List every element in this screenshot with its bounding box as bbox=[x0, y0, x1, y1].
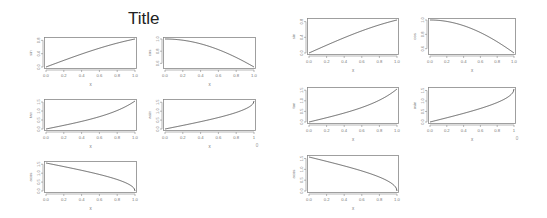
curve-tan bbox=[46, 101, 135, 129]
x-tick-label: 0.0 bbox=[427, 128, 433, 133]
x-tick-label: 0.6 bbox=[359, 59, 365, 64]
y-tick-label: 1.5 bbox=[155, 99, 160, 105]
y-tick-label: 0.8 bbox=[420, 31, 425, 37]
y-tick-label: 0.5 bbox=[36, 179, 41, 185]
x-tick-label: 0.4 bbox=[341, 197, 347, 202]
x-axis-label: x bbox=[471, 137, 474, 142]
curve-sin bbox=[46, 39, 135, 67]
plot-frame bbox=[45, 100, 137, 131]
x-tick-label: 1.0 bbox=[394, 59, 400, 64]
plot-panel-asin: 0.00.20.40.60.810.00.51.01.5asinx0 bbox=[163, 99, 256, 131]
x-tick-label: 0.6 bbox=[477, 59, 483, 64]
y-tick-label: 0.0 bbox=[36, 63, 41, 69]
x-tick-label: 0.4 bbox=[79, 135, 85, 140]
plot-panel-cos: 0.00.20.40.60.81.00.60.81.0cosx bbox=[163, 37, 256, 69]
plot-svg: 0.00.20.40.60.81.00.00.40.8sinx bbox=[44, 37, 137, 69]
y-tick-label: 0.5 bbox=[36, 116, 41, 122]
x-tick-label: 0.4 bbox=[198, 135, 204, 140]
x-tick-label: 0.8 bbox=[233, 73, 239, 78]
curve-asin bbox=[430, 89, 514, 122]
y-axis-label: acos bbox=[28, 173, 33, 182]
plot-svg: 0.00.20.40.60.810.00.51.01.5asinx0 bbox=[163, 99, 256, 131]
y-tick-label: 0.0 bbox=[420, 118, 425, 124]
y-tick-label: 0.0 bbox=[155, 125, 160, 131]
x-tick-label: 0.6 bbox=[477, 128, 483, 133]
y-axis-label: acos bbox=[291, 170, 296, 179]
curve-cos bbox=[165, 39, 254, 67]
curve-tan bbox=[309, 89, 397, 122]
x-tick-label: 1.0 bbox=[511, 59, 517, 64]
y-tick-label: 0.8 bbox=[299, 18, 304, 24]
y-tick-label: 0.0 bbox=[299, 49, 304, 55]
x-tick-label: 1.0 bbox=[394, 128, 400, 133]
plot-frame bbox=[164, 38, 256, 69]
y-tick-label: 1.0 bbox=[155, 108, 160, 114]
x-tick-label: 0.0 bbox=[427, 59, 433, 64]
y-tick-label: 1.5 bbox=[36, 98, 41, 104]
y-tick-label: 1.0 bbox=[299, 97, 304, 103]
plot-svg: 0.00.20.40.60.81.00.60.81.0cosx bbox=[163, 37, 256, 69]
curve-sin bbox=[309, 20, 397, 53]
y-tick-label: 0.5 bbox=[299, 177, 304, 183]
x-tick-label: 0.8 bbox=[114, 73, 120, 78]
plot-panel-tan: 0.00.20.40.60.81.00.00.51.01.5tanx bbox=[44, 99, 137, 131]
figure-title: Title bbox=[128, 9, 160, 29]
y-tick-label: 1.0 bbox=[299, 166, 304, 172]
x-tick-label: 0.6 bbox=[215, 135, 221, 140]
x-tick-label: 1.0 bbox=[394, 197, 400, 202]
plot-svg: 0.00.20.40.60.810.00.51.01.5asinx0 bbox=[428, 87, 516, 124]
x-tick-label: 0.2 bbox=[444, 59, 450, 64]
x-tick-label: 0.4 bbox=[461, 128, 467, 133]
x-tick-label: 0.6 bbox=[215, 73, 221, 78]
y-tick-label: 1.0 bbox=[36, 170, 41, 176]
x-tick-label: 0.6 bbox=[96, 197, 102, 202]
x-axis-label: x bbox=[208, 82, 211, 87]
y-tick-label: 0.0 bbox=[299, 187, 304, 193]
x-axis-label: x bbox=[89, 206, 92, 211]
x-tick-label: 0.2 bbox=[61, 73, 67, 78]
annotation: 0 bbox=[516, 136, 519, 141]
x-tick-label: 0.2 bbox=[61, 135, 67, 140]
x-tick-label: 0.2 bbox=[180, 73, 186, 78]
x-tick-label: 1.0 bbox=[132, 135, 138, 140]
x-tick-label: 1.0 bbox=[251, 73, 257, 78]
y-tick-label: 0.6 bbox=[420, 45, 425, 51]
plot-frame bbox=[308, 156, 399, 193]
x-tick-label: 0.0 bbox=[306, 59, 312, 64]
plot-panel-acos: 0.00.20.40.60.81.00.00.51.01.5acosx bbox=[307, 155, 399, 193]
plot-svg: 0.00.20.40.60.81.00.60.81.0cosx bbox=[428, 18, 516, 55]
plot-panel-sin: 0.00.20.40.60.81.00.00.40.8sinx bbox=[307, 18, 399, 55]
x-axis-label: x bbox=[208, 144, 211, 149]
x-tick-label: 1.0 bbox=[132, 73, 138, 78]
x-tick-label: 0.2 bbox=[324, 59, 330, 64]
x-tick-label: 0.8 bbox=[376, 128, 382, 133]
plot-frame bbox=[45, 162, 137, 193]
y-tick-label: 1.0 bbox=[36, 107, 41, 113]
plot-panel-cos: 0.00.20.40.60.81.00.60.81.0cosx bbox=[428, 18, 516, 55]
x-tick-label: 0.4 bbox=[198, 73, 204, 78]
x-tick-label: 0.8 bbox=[494, 59, 500, 64]
x-tick-label: 0.0 bbox=[43, 197, 49, 202]
y-tick-label: 1.0 bbox=[420, 97, 425, 103]
plot-svg: 0.00.20.40.60.81.00.00.51.01.5tanx bbox=[307, 87, 399, 124]
x-tick-label: 0.0 bbox=[306, 197, 312, 202]
x-tick-label: 0.2 bbox=[180, 135, 186, 140]
y-tick-label: 0.5 bbox=[299, 108, 304, 114]
y-tick-label: 0.0 bbox=[299, 118, 304, 124]
x-tick-label: 0.8 bbox=[376, 59, 382, 64]
y-axis-label: asin bbox=[412, 101, 417, 109]
x-tick-label: 0.2 bbox=[324, 128, 330, 133]
y-tick-label: 1.5 bbox=[420, 87, 425, 93]
plot-frame bbox=[308, 19, 399, 55]
x-tick-label: 0.4 bbox=[341, 59, 347, 64]
plot-frame bbox=[429, 19, 516, 55]
y-axis-label: cos bbox=[412, 33, 417, 40]
x-axis-label: x bbox=[89, 144, 92, 149]
x-tick-label: 0.4 bbox=[79, 73, 85, 78]
x-axis-label: x bbox=[352, 206, 355, 211]
y-tick-label: 0.0 bbox=[36, 187, 41, 193]
x-tick-label: 0.2 bbox=[444, 128, 450, 133]
y-tick-label: 0.0 bbox=[36, 125, 41, 131]
x-axis-label: x bbox=[89, 82, 92, 87]
y-axis-label: tan bbox=[28, 111, 33, 117]
